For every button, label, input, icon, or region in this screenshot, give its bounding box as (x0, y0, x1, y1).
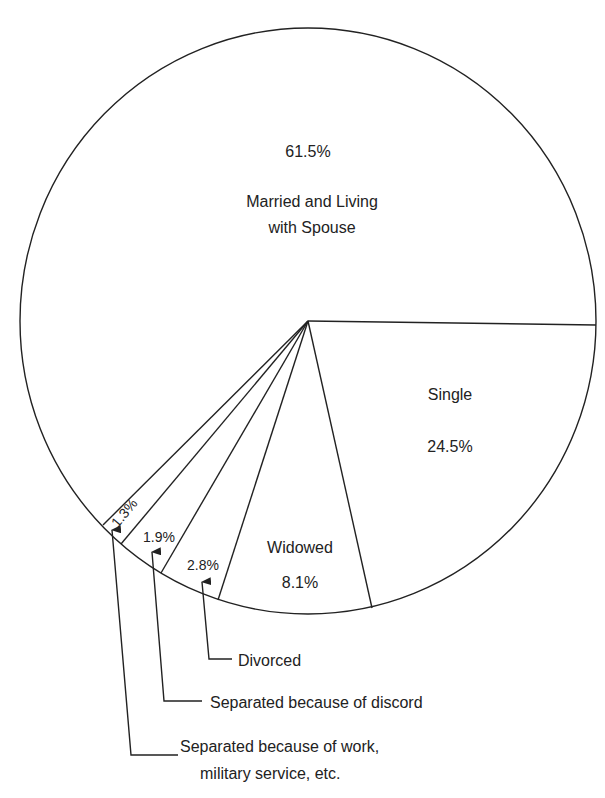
slice-widowed: Widowed 8.1% (267, 539, 333, 591)
divorced-percent: 2.8% (187, 557, 219, 573)
boundary-married-single (308, 321, 596, 325)
slice-boundaries (103, 321, 596, 608)
discord-percent: 1.9% (143, 529, 175, 545)
leader-line-work (112, 530, 178, 755)
callout-divorced: Divorced (202, 582, 301, 669)
divorced-callout-label: Divorced (238, 652, 301, 669)
slice-married: 61.5% Married and Living with Spouse (246, 143, 378, 236)
discord-callout-label: Separated because of discord (210, 694, 423, 711)
married-percent: 61.5% (285, 143, 330, 160)
slice-single: Single 24.5% (427, 386, 472, 455)
boundary-discord-work (121, 321, 308, 544)
married-label-line2: with Spouse (267, 219, 355, 236)
boundary-divorced-discord (161, 321, 308, 573)
work-percent: 1.3% (108, 495, 141, 530)
pie-chart: 61.5% Married and Living with Spouse Sin… (0, 0, 605, 798)
boundary-work-married (103, 321, 308, 525)
boundary-widowed-divorced (218, 321, 308, 600)
married-label-line1: Married and Living (246, 193, 378, 210)
leader-line-discord (152, 552, 202, 701)
boundary-single-widowed (308, 321, 372, 608)
work-callout-label-line2: military service, etc. (200, 765, 340, 782)
leader-line-divorced (202, 582, 232, 659)
single-label: Single (428, 386, 473, 403)
work-callout-label-line1: Separated because of work, (180, 738, 379, 755)
widowed-percent: 8.1% (282, 574, 318, 591)
widowed-label: Widowed (267, 539, 333, 556)
single-percent: 24.5% (427, 438, 472, 455)
